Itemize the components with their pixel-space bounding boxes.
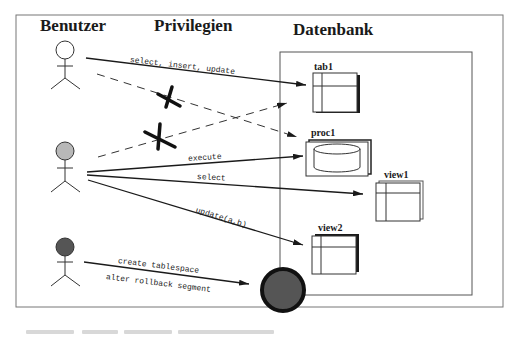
denied-x-mark-1 xyxy=(158,87,180,107)
table-icon-tab1 xyxy=(313,73,360,113)
denied-arrow-user1-proc1 xyxy=(97,74,297,137)
label-tab1: tab1 xyxy=(314,61,333,72)
label-proc1: proc1 xyxy=(311,127,335,138)
label-view2: view2 xyxy=(318,222,342,233)
view-icon-view1 xyxy=(376,181,423,221)
user1-stick-figure xyxy=(51,41,80,89)
heading-users: Benutzer xyxy=(40,16,106,36)
user2-stick-figure xyxy=(51,142,80,192)
caption-placeholder xyxy=(178,330,274,334)
heading-database: Datenbank xyxy=(293,20,373,40)
caption-placeholder xyxy=(26,330,74,334)
heading-privileges: Privilegien xyxy=(154,16,232,36)
system-privilege-circle xyxy=(262,269,304,311)
privilege-label-select: select xyxy=(197,172,226,182)
denied-arrow-user2-tab1 xyxy=(98,103,287,157)
caption-placeholder xyxy=(124,330,172,334)
privilege-diagram: Benutzer Privilegien Datenbank tab1 proc… xyxy=(0,0,515,338)
caption-placeholder xyxy=(82,330,118,334)
procedure-icon-proc1 xyxy=(306,140,371,176)
view-icon-view2 xyxy=(312,234,359,274)
label-view1: view1 xyxy=(384,169,408,180)
user3-stick-figure xyxy=(51,238,80,286)
